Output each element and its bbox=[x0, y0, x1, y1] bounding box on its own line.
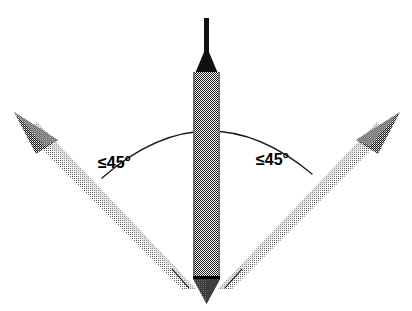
diagram-svg bbox=[0, 0, 412, 311]
probe-body bbox=[193, 72, 220, 278]
arrow-left bbox=[14, 112, 196, 289]
angle-label-right: ≤45° bbox=[256, 152, 289, 168]
probe-baseline bbox=[193, 276, 220, 279]
probe bbox=[193, 18, 220, 304]
arrow-right bbox=[218, 112, 400, 289]
angle-label-left: ≤45° bbox=[98, 155, 131, 171]
figure-canvas: ≤45° ≤45° bbox=[0, 0, 412, 311]
